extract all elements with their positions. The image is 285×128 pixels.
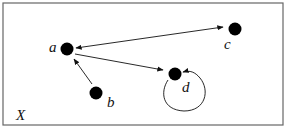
- set-frame: [3, 3, 283, 125]
- edge-a-d: [75, 54, 163, 70]
- node-d: [169, 68, 182, 81]
- edge-b-a: [74, 59, 92, 84]
- node-label-a: a: [49, 39, 57, 55]
- node-a: [61, 43, 74, 56]
- node-label-d: d: [182, 79, 190, 95]
- edge-a-c: [76, 27, 223, 48]
- node-label-b: b: [107, 94, 115, 110]
- frame-label: X: [15, 107, 26, 123]
- node-b: [90, 87, 103, 100]
- node-label-c: c: [224, 36, 231, 52]
- node-c: [229, 23, 242, 36]
- graph-diagram: a b c d X: [0, 0, 285, 128]
